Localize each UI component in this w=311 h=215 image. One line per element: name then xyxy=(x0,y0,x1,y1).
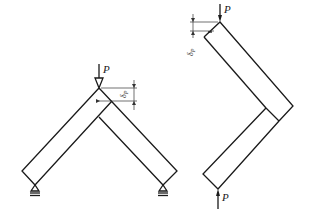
top-load-arrow-icon xyxy=(218,4,222,22)
load-label: P xyxy=(102,63,110,75)
joint-line xyxy=(266,108,279,121)
pin-support-right-icon xyxy=(158,185,168,196)
lower-leg xyxy=(203,108,279,189)
left-figure: P δP xyxy=(22,63,177,196)
top-load-label: P xyxy=(223,3,231,15)
displacement-label-right: δP xyxy=(186,48,196,56)
bottom-load-label: P xyxy=(221,191,229,203)
displacement-label: δP xyxy=(119,90,129,98)
displacement-dimension-right xyxy=(190,14,218,38)
left-leg xyxy=(22,88,112,185)
load-arrow-icon xyxy=(95,64,103,88)
right-figure: P P δP xyxy=(186,3,293,209)
displacement-dimension xyxy=(96,80,137,110)
bottom-load-arrow-icon xyxy=(216,189,220,209)
diagram-canvas: P δP xyxy=(0,0,311,215)
pin-support-left-icon xyxy=(30,185,40,196)
upper-leg xyxy=(204,22,293,121)
upper-leg-inner-edge xyxy=(204,37,266,108)
